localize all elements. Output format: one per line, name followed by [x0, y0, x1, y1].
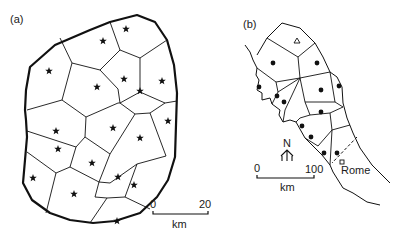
triangle-icon: [294, 38, 300, 43]
city-label-rome: Rome: [341, 165, 370, 176]
polygon-edge: [125, 197, 150, 209]
polygon-edge: [125, 164, 137, 197]
polygon-edge: [100, 50, 120, 70]
scale-a-end: 20: [199, 199, 211, 210]
star-icon: [136, 134, 144, 141]
polygon-edge: [86, 103, 118, 117]
star-icon: [88, 159, 96, 166]
star-icon: [122, 25, 130, 32]
star-icon: [130, 181, 138, 188]
dot-icon: [275, 94, 280, 99]
polygon-edge: [27, 100, 62, 110]
polygon-edge: [137, 156, 166, 164]
star-icon: [93, 83, 101, 90]
polygon-edge: [99, 182, 110, 183]
polygon-edge: [110, 22, 120, 50]
dot-icon: [319, 110, 324, 115]
scale-b-start: 0: [254, 163, 260, 174]
star-icon: [29, 174, 37, 181]
panel-a-voronoi-map: [23, 15, 208, 224]
polygon-edge: [267, 38, 298, 57]
dot-icon: [300, 124, 305, 129]
star-icon: [70, 190, 78, 197]
dot-icon: [315, 61, 320, 66]
dashed-boundary: [332, 137, 357, 163]
polygon-edge: [150, 103, 165, 113]
polygon-edge: [298, 57, 300, 78]
polygon-edge: [305, 102, 310, 115]
polygon-edge: [300, 78, 305, 102]
polygon-edge: [140, 40, 167, 58]
polygon-edge: [298, 43, 315, 57]
northern-boundary: [257, 23, 282, 55]
dot-icon: [271, 61, 276, 66]
polygon-edge: [70, 167, 99, 182]
star-icon: [99, 37, 107, 44]
panel-a-label: (a): [10, 14, 23, 25]
scale-a-unit: km: [172, 219, 187, 230]
north-label: N: [283, 138, 291, 149]
polygon-edge: [332, 125, 350, 130]
scale-b-unit: km: [280, 182, 295, 193]
scale-b-end: 100: [305, 164, 323, 175]
dot-icon: [335, 151, 340, 156]
polygon-edge: [100, 70, 118, 89]
coastline: [245, 45, 380, 205]
dot-icon: [319, 88, 324, 93]
polygon-edge: [330, 107, 343, 113]
panel-b-italy-map: [245, 23, 390, 205]
polygon-edge: [107, 197, 125, 198]
star-icon: [120, 75, 128, 82]
scale-bar-b: [257, 175, 314, 178]
polygon-edge: [118, 89, 120, 103]
polygon-edge: [110, 114, 135, 154]
polygon-edge: [330, 113, 332, 130]
scale-a-start: 0: [150, 199, 156, 210]
polygon-edge: [62, 63, 72, 100]
polygon-edge: [300, 115, 310, 118]
region-outline: [23, 15, 177, 223]
dot-icon: [257, 85, 262, 90]
polygon-edge: [120, 103, 135, 114]
polygon-edge: [120, 92, 140, 103]
polygon-edge: [257, 68, 276, 82]
polygon-edge: [99, 154, 110, 182]
polygon-edge: [318, 130, 332, 146]
dot-icon: [322, 151, 327, 156]
polygon-edge: [85, 137, 110, 154]
polygon-edge: [120, 50, 140, 58]
scale-bar-a: [153, 211, 208, 214]
polygon-edge: [90, 198, 107, 223]
dot-markers: [257, 61, 342, 156]
polygon-edge: [335, 102, 343, 107]
star-icon: [164, 117, 172, 124]
polygon-boundaries: [27, 22, 177, 223]
polygon-edge: [283, 110, 285, 122]
polygon-edge: [60, 38, 72, 63]
dot-icon: [282, 100, 287, 105]
north-arrow-icon: [281, 150, 293, 161]
polygon-edge: [140, 92, 165, 103]
star-icon: [158, 77, 166, 84]
polygon-edge: [56, 167, 70, 173]
polygon-edge: [70, 147, 76, 167]
polygon-edge: [85, 117, 86, 137]
polygon-edge: [165, 101, 177, 103]
polygon-edge: [150, 113, 166, 156]
polygon-edge: [135, 113, 150, 114]
dot-icon: [337, 84, 342, 89]
star-icon: [109, 124, 117, 131]
polygon-edge: [62, 100, 86, 117]
polygon-edge: [95, 197, 107, 198]
polygon-edge: [76, 137, 85, 147]
polygon-edge: [95, 182, 99, 197]
polygon-edge: [27, 131, 76, 147]
polygon-edge: [300, 72, 330, 78]
star-icon: [52, 127, 60, 134]
polygon-edge: [110, 164, 137, 183]
polygon-edge: [46, 173, 56, 213]
polygon-edge: [276, 82, 278, 92]
polygon-edge: [330, 130, 332, 165]
star-icon: [113, 217, 121, 224]
dot-icon: [309, 135, 314, 140]
